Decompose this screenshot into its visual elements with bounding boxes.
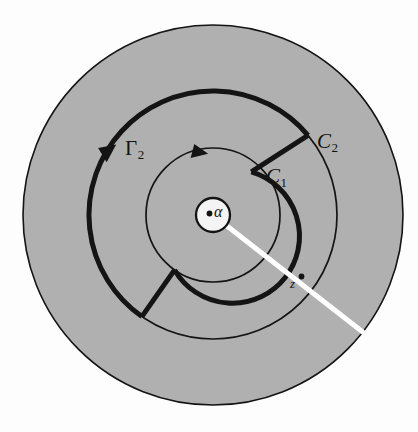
label-c-2-subscript: 2	[331, 140, 338, 155]
label-c-2-base: C	[317, 129, 331, 153]
alpha-point-dot	[207, 211, 213, 217]
annulus-contour-diagram	[0, 0, 418, 432]
label-z: z	[290, 277, 295, 290]
label-c-1-subscript: 1	[280, 175, 287, 190]
label-c-1-base: C	[266, 164, 280, 188]
figure-canvas: Γ2 C2 C1 α z	[0, 0, 418, 432]
alpha-hole-circle	[196, 198, 230, 232]
z-point-dot	[299, 274, 305, 280]
label-c-1: C1	[266, 166, 287, 189]
label-gamma-2-base: Γ	[125, 136, 137, 160]
label-c-2: C2	[317, 131, 338, 154]
label-gamma-2-subscript: 2	[137, 147, 144, 162]
label-gamma-2: Γ2	[125, 138, 144, 161]
label-alpha: α	[214, 204, 222, 220]
